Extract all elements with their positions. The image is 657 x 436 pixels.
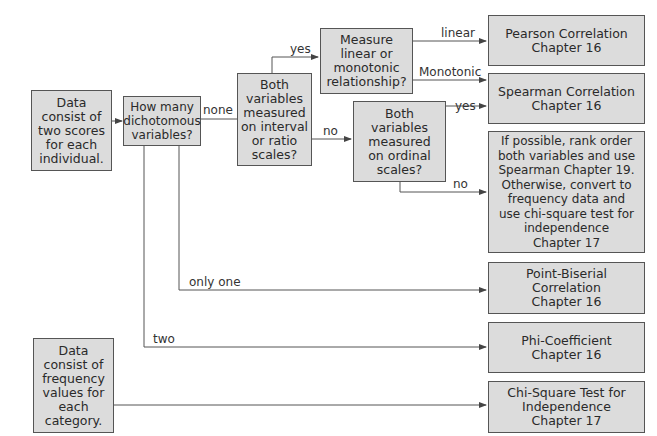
node-how-many-dichotomous: How many dichotomous variables? [123, 96, 201, 146]
edge-label-no-ordinal: no [453, 178, 468, 191]
edge-label-two: two [153, 333, 175, 346]
node-text: Pearson Correlation Chapter 16 [505, 27, 628, 55]
edge-label-yes-ordinal: yes [455, 100, 476, 113]
node-text: How many dichotomous variables? [123, 100, 200, 142]
node-chi-square-independence: Chi-Square Test for Independence Chapter… [488, 381, 645, 433]
node-pearson: Pearson Correlation Chapter 16 [488, 15, 645, 66]
node-ordinal-question: Both variables measured on ordinal scale… [353, 101, 446, 182]
node-rank-order-or-chi-square: If possible, rank order both variables a… [488, 131, 645, 253]
node-data-two-scores: Data consist of two scores for each indi… [31, 90, 112, 171]
node-text: Both variables measured on interval or r… [241, 78, 308, 162]
node-text: Point-Biserial Correlation Chapter 16 [526, 267, 607, 309]
node-linear-monotonic-question: Measure linear or monotonic relationship… [320, 28, 413, 94]
node-text: If possible, rank order both variables a… [498, 134, 635, 250]
edge-label-only-one: only one [189, 276, 241, 289]
edge-label-monotonic: Monotonic [419, 66, 481, 79]
node-text: Phi-Coefficient Chapter 16 [521, 334, 611, 362]
node-text: Measure linear or monotonic relationship… [326, 33, 406, 89]
node-text: Spearman Correlation Chapter 16 [498, 85, 635, 113]
node-spearman: Spearman Correlation Chapter 16 [488, 73, 645, 124]
node-point-biserial: Point-Biserial Correlation Chapter 16 [488, 262, 645, 314]
node-data-frequency: Data consist of frequency values for eac… [33, 338, 114, 433]
node-interval-ratio-question: Both variables measured on interval or r… [237, 73, 312, 166]
edge-label-yes-interval: yes [290, 43, 311, 56]
node-text: Data consist of two scores for each indi… [38, 96, 105, 166]
edge-label-linear: linear [441, 27, 475, 40]
node-text: Both variables measured on ordinal scale… [368, 107, 431, 177]
edge-label-none: none [203, 104, 233, 117]
node-phi-coefficient: Phi-Coefficient Chapter 16 [488, 322, 645, 373]
edge-label-no-interval: no [323, 125, 338, 138]
node-text: Chi-Square Test for Independence Chapter… [507, 386, 625, 428]
node-text: Data consist of frequency values for eac… [42, 344, 105, 428]
